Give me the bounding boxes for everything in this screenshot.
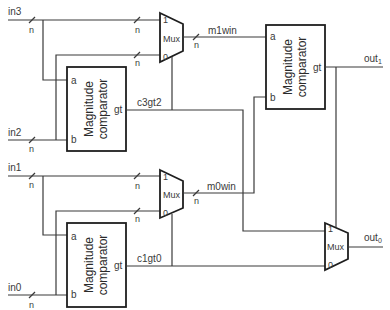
bus-width: n (29, 180, 34, 190)
port-b: b (71, 134, 77, 145)
signal-m0win: m0win (207, 181, 236, 192)
bus-width: n (135, 25, 140, 35)
mux-label: Mux (163, 190, 181, 200)
port-b: b (71, 289, 77, 300)
bus-width: n (194, 196, 199, 206)
signal-m1win: m1win (208, 25, 237, 36)
bus-width: n (29, 300, 34, 310)
mux-label: Mux (163, 34, 181, 44)
bus-width: n (135, 214, 140, 224)
bus-width: n (194, 40, 199, 50)
comparator-title: Magnitude (82, 81, 96, 137)
port-a: a (270, 31, 276, 42)
bus-width: n (29, 25, 34, 35)
port-gt: gt (114, 260, 123, 271)
label-out0: out0 (364, 232, 382, 244)
comparator-title: Magnitude (82, 237, 96, 293)
mux-label: Mux (327, 242, 345, 252)
label-in0: in0 (8, 282, 22, 293)
mux-port-0: 0 (163, 208, 168, 218)
comparator-title: comparator (96, 79, 110, 140)
port-gt: gt (313, 62, 322, 73)
comparator-title: comparator (295, 37, 309, 98)
label-in2: in2 (8, 127, 22, 138)
signal-c1gt0: c1gt0 (137, 253, 162, 264)
label-in1: in1 (8, 162, 22, 173)
mux-port-0: 0 (163, 52, 168, 62)
mux-port-1: 1 (328, 224, 333, 234)
wire-c3gt2 (126, 110, 327, 231)
port-a: a (71, 231, 77, 242)
signal-c3gt2: c3gt2 (137, 97, 162, 108)
bus-width: n (135, 58, 140, 68)
mux-port-0: 0 (328, 260, 333, 270)
port-a: a (71, 75, 77, 86)
label-in3: in3 (8, 6, 22, 17)
comparator-title: comparator (96, 235, 110, 296)
bus-width: n (29, 144, 34, 154)
comparator-title: Magnitude (281, 39, 295, 95)
bus-width: n (135, 181, 140, 191)
wire-m0win (183, 97, 266, 193)
circuit-diagram: in3 n n in2 n n a b gt Magnitude compara… (0, 0, 390, 310)
wire-in1-to-a (43, 176, 67, 235)
mux-port-1: 1 (163, 15, 168, 25)
port-b: b (270, 92, 276, 103)
wire-in3-to-a (43, 20, 67, 80)
port-gt: gt (114, 104, 123, 115)
label-out1: out1 (364, 53, 382, 65)
mux-port-1: 1 (163, 172, 168, 182)
